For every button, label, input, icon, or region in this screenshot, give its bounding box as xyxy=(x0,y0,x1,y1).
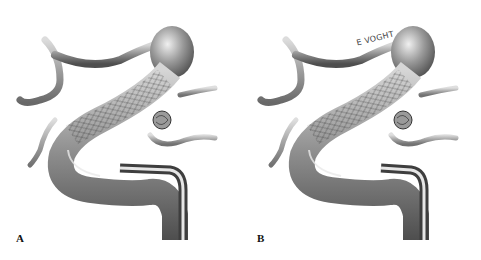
panel-a: A xyxy=(0,0,240,260)
panel-b: E VOGHT B xyxy=(241,0,481,260)
vessel-illustration-a xyxy=(0,0,240,260)
panel-label-a: A xyxy=(16,232,24,244)
panel-label-b: B xyxy=(257,232,264,244)
